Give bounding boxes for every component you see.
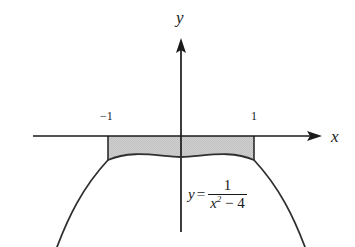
figure-canvas: y x −1 1 y = 1 x2 − 4: [0, 0, 355, 247]
equation-label: y = 1 x2 − 4: [188, 178, 247, 211]
fraction-numerator: 1: [218, 178, 238, 194]
tick-label-negative-one: −1: [100, 110, 113, 122]
denominator-exponent: 2: [217, 194, 222, 204]
tick-label-positive-one: 1: [251, 110, 257, 122]
fraction-denominator: x2 − 4: [208, 195, 247, 211]
x-axis-label: x: [331, 128, 339, 145]
equation-lhs: y: [188, 187, 195, 202]
graph-svg: [0, 0, 355, 247]
y-axis-label: y: [176, 9, 184, 26]
equation-fraction: 1 x2 − 4: [208, 178, 247, 211]
denominator-remainder: − 4: [225, 195, 245, 211]
equation-equals-sign: =: [197, 187, 205, 202]
denominator-variable: x: [210, 195, 217, 211]
